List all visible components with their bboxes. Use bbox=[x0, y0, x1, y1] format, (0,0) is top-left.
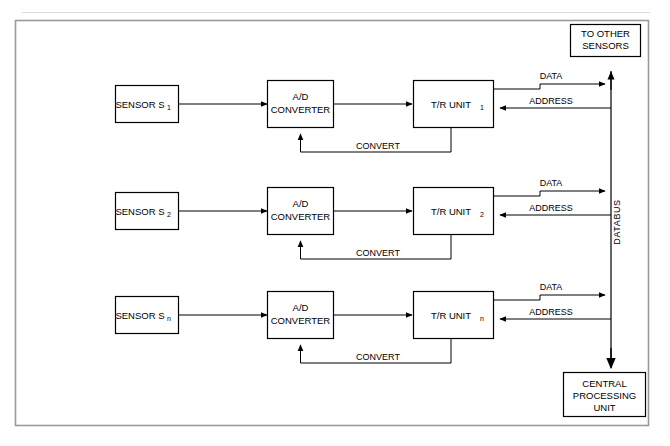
address-label-2: ADDRESS bbox=[529, 203, 573, 213]
adc-line1-3: A/D bbox=[293, 302, 309, 313]
sensor-label-1: SENSOR S bbox=[115, 99, 164, 110]
sensor-box-2: SENSOR S 2 bbox=[115, 193, 178, 230]
tr-subscript-2: 2 bbox=[480, 211, 484, 218]
sensor-box-3: SENSOR S n bbox=[115, 297, 178, 334]
link-data-to-bus-3 bbox=[494, 295, 606, 300]
adc-line1-1: A/D bbox=[293, 91, 309, 102]
sensor-subscript-3: n bbox=[167, 315, 171, 322]
address-label-1: ADDRESS bbox=[529, 96, 573, 106]
adc-line2-2: CONVERTER bbox=[271, 211, 331, 222]
convert-label-2: CONVERT bbox=[356, 248, 400, 258]
central-processing-unit-box: CENTRAL PROCESSING UNIT bbox=[564, 373, 646, 417]
sensor-subscript-2: 2 bbox=[167, 211, 171, 218]
tr-label-1: T/R UNIT bbox=[431, 99, 471, 110]
adc-line2-3: CONVERTER bbox=[271, 315, 331, 326]
tr-label-2: T/R UNIT bbox=[431, 206, 471, 217]
cpu-line3: UNIT bbox=[593, 402, 615, 413]
adc-line1-2: A/D bbox=[293, 198, 309, 209]
to-other-sensors-box: TO OTHER SENSORS bbox=[571, 25, 641, 57]
convert-label-1: CONVERT bbox=[356, 141, 400, 151]
link-data-to-bus-1 bbox=[494, 84, 606, 89]
to-other-sensors-line1: TO OTHER bbox=[581, 28, 630, 39]
data-label-3: DATA bbox=[540, 282, 563, 292]
adc-line2-1: CONVERTER bbox=[271, 104, 331, 115]
cpu-line1: CENTRAL bbox=[582, 378, 626, 389]
sensor-chain-row-1: SENSOR S 1 A/D CONVERTER T/R UNIT 1 DATA bbox=[115, 71, 611, 152]
sensor-label-3: SENSOR S bbox=[115, 310, 164, 321]
sensor-label-2: SENSOR S bbox=[115, 206, 164, 217]
cpu-line2: PROCESSING bbox=[573, 390, 636, 401]
tr-unit-box-2: T/R UNIT 2 bbox=[414, 188, 494, 235]
block-diagram: DATABUS TO OTHER SENSORS CENTRAL PROCESS… bbox=[0, 0, 670, 446]
sensor-chain-row-2: SENSOR S 2 A/D CONVERTER T/R UNIT 2 DATA… bbox=[115, 178, 611, 259]
page-canvas: DATABUS TO OTHER SENSORS CENTRAL PROCESS… bbox=[0, 0, 670, 446]
convert-label-3: CONVERT bbox=[356, 352, 400, 362]
adc-box-1: A/D CONVERTER bbox=[268, 81, 334, 128]
sensor-chain-row-3: SENSOR S n A/D CONVERTER T/R UNIT n DATA… bbox=[115, 282, 611, 363]
data-label-1: DATA bbox=[540, 71, 563, 81]
to-other-sensors-line2: SENSORS bbox=[582, 40, 628, 51]
sensor-subscript-1: 1 bbox=[167, 104, 171, 111]
tr-unit-box-3: T/R UNIT n bbox=[414, 292, 494, 339]
adc-box-2: A/D CONVERTER bbox=[268, 188, 334, 235]
databus-label: DATABUS bbox=[612, 199, 622, 244]
sensor-box-1: SENSOR S 1 bbox=[115, 86, 178, 123]
address-label-3: ADDRESS bbox=[529, 307, 573, 317]
tr-label-3: T/R UNIT bbox=[431, 310, 471, 321]
data-label-2: DATA bbox=[540, 178, 563, 188]
tr-unit-box-1: T/R UNIT 1 bbox=[414, 81, 494, 128]
adc-box-3: A/D CONVERTER bbox=[268, 292, 334, 339]
tr-subscript-1: 1 bbox=[480, 104, 484, 111]
tr-subscript-3: n bbox=[480, 315, 484, 322]
link-data-to-bus-2 bbox=[494, 191, 606, 196]
